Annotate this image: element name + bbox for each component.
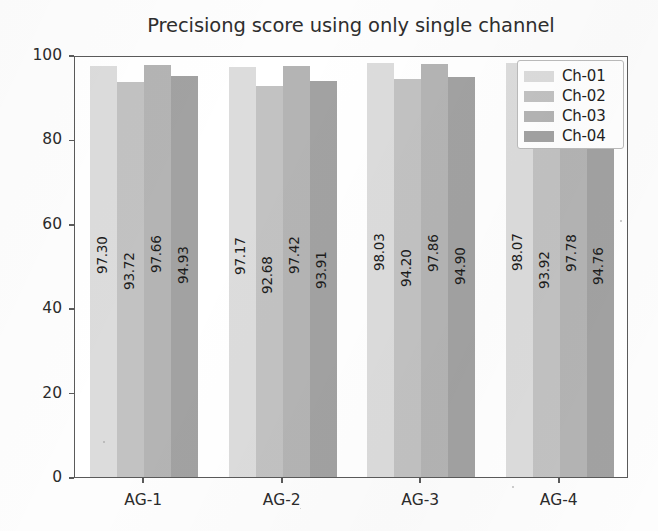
- y-tick-label: 20: [2, 384, 62, 402]
- chart-title: Precisiong score using only single chann…: [0, 14, 658, 37]
- x-tick-label: AG-2: [232, 491, 332, 509]
- bar-value-label: 92.68: [259, 256, 275, 294]
- legend-label: Ch-04: [562, 127, 605, 145]
- legend-label: Ch-02: [562, 87, 605, 105]
- bar-value-label: 94.76: [590, 247, 606, 285]
- bar-value-label: 98.07: [509, 233, 525, 271]
- x-tick-mark: [419, 478, 421, 483]
- bar-value-label: 93.72: [121, 252, 137, 290]
- x-tick-mark: [281, 478, 283, 483]
- legend-swatch: [524, 91, 554, 102]
- legend-swatch: [524, 131, 554, 142]
- bar-value-label: 93.92: [536, 251, 552, 289]
- bar-value-label: 97.66: [148, 235, 164, 273]
- bar-value-label: 94.93: [175, 247, 191, 285]
- bar-value-label: 97.86: [425, 234, 441, 272]
- y-tick-mark: [69, 224, 74, 226]
- y-tick-mark: [69, 308, 74, 310]
- y-tick-mark: [69, 477, 74, 479]
- scan-artifact: [620, 220, 622, 222]
- y-tick-mark: [69, 55, 74, 57]
- y-tick-label: 100: [2, 46, 62, 64]
- bar-value-label: 98.03: [371, 234, 387, 272]
- legend-item: Ch-04: [524, 126, 605, 146]
- x-tick-mark: [558, 478, 560, 483]
- x-tick-label: AG-4: [509, 491, 609, 509]
- y-tick-mark: [69, 393, 74, 395]
- bar-value-label: 97.17: [232, 237, 248, 275]
- bar-value-label: 97.42: [286, 236, 302, 274]
- x-tick-label: AG-1: [93, 491, 193, 509]
- y-tick-label: 0: [2, 468, 62, 486]
- x-tick-mark: [142, 478, 144, 483]
- bar-value-label: 97.30: [94, 237, 110, 275]
- legend-item: Ch-03: [524, 106, 605, 126]
- bar-value-label: 94.90: [452, 247, 468, 285]
- bar-value-label: 94.20: [398, 250, 414, 288]
- chart-legend: Ch-01Ch-02Ch-03Ch-04: [517, 60, 624, 149]
- y-tick-label: 40: [2, 299, 62, 317]
- legend-swatch: [524, 111, 554, 122]
- bar-value-label: 93.91: [313, 251, 329, 289]
- y-tick-label: 60: [2, 215, 62, 233]
- chart-figure: Precisiong score using only single chann…: [0, 0, 658, 531]
- scan-artifact: [512, 486, 514, 488]
- bar-value-label: 97.78: [563, 235, 579, 273]
- legend-swatch: [524, 71, 554, 82]
- legend-item: Ch-01: [524, 66, 605, 86]
- legend-label: Ch-03: [562, 107, 605, 125]
- y-tick-mark: [69, 140, 74, 142]
- y-tick-label: 80: [2, 130, 62, 148]
- legend-item: Ch-02: [524, 86, 605, 106]
- legend-label: Ch-01: [562, 67, 605, 85]
- x-tick-label: AG-3: [370, 491, 470, 509]
